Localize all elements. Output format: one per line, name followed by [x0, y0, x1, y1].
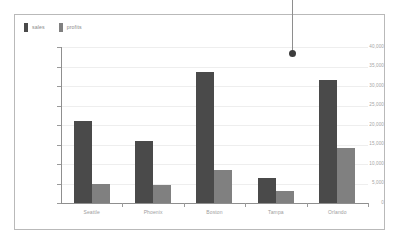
bar-sales[interactable] — [74, 121, 92, 203]
bar-profits[interactable] — [276, 191, 294, 203]
chart-legend: sales profits — [24, 23, 82, 32]
bar-group — [122, 46, 183, 203]
legend-item-label: sales — [32, 25, 45, 30]
bar-sales[interactable] — [135, 141, 153, 203]
x-axis-category-label: Phoenix — [121, 210, 185, 215]
x-axis-category-label: Boston — [183, 210, 247, 215]
x-axis-tick-mark — [368, 203, 369, 207]
bar-group — [245, 46, 306, 203]
bar-profits[interactable] — [153, 185, 171, 203]
x-axis-line — [61, 203, 368, 204]
plot-area: 05,00010,00015,00020,00025,00030,00035,0… — [15, 43, 384, 229]
chart-panel: sales profits 05,00010,00015,00020,00025… — [14, 14, 385, 230]
x-axis-category-label: Tampa — [244, 210, 308, 215]
x-axis-category-label: Orlando — [305, 210, 369, 215]
bar-group-bars — [245, 46, 306, 203]
bar-group — [184, 46, 245, 203]
x-axis-tick-mark — [184, 203, 185, 207]
bar-group — [307, 46, 368, 203]
bar-profits[interactable] — [337, 148, 355, 203]
legend-item-profits[interactable]: profits — [59, 23, 82, 32]
x-axis-tick-mark — [307, 203, 308, 207]
legend-item-sales[interactable]: sales — [24, 23, 45, 32]
legend-item-label: profits — [67, 25, 82, 30]
bar-profits[interactable] — [92, 184, 110, 204]
bar-group-bars — [122, 46, 183, 203]
bar-group — [61, 46, 122, 203]
bar-group-bars — [61, 46, 122, 203]
bar-sales[interactable] — [196, 72, 214, 203]
bar-group-bars — [184, 46, 245, 203]
x-axis-tick-mark — [122, 203, 123, 207]
x-axis-tick-mark — [245, 203, 246, 207]
legend-swatch-icon — [24, 23, 28, 32]
bar-profits[interactable] — [214, 170, 232, 203]
x-axis-category-label: Seattle — [60, 210, 124, 215]
legend-swatch-icon — [59, 23, 63, 32]
bar-sales[interactable] — [258, 178, 276, 203]
bar-sales[interactable] — [319, 80, 337, 203]
bar-group-bars — [307, 46, 368, 203]
